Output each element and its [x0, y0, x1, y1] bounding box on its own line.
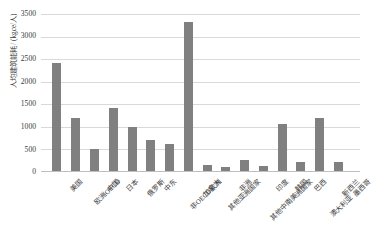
- x-tick-label-5: 中东: [161, 176, 178, 193]
- bar-8: [203, 165, 212, 171]
- bar-14: [315, 118, 324, 171]
- gridline-2500: [41, 59, 360, 60]
- x-tick-label-3: 日本: [123, 176, 140, 193]
- y-tick-label-500: 500: [2, 146, 36, 154]
- gridline-3000: [41, 37, 360, 38]
- bar-1: [71, 118, 80, 171]
- y-tick-label-2500: 2500: [2, 55, 36, 63]
- x-tick-label-13: 巴西: [311, 176, 328, 193]
- bar-9: [221, 167, 230, 171]
- bar-5: [146, 140, 155, 171]
- bar-4: [128, 127, 137, 171]
- y-tick-label-3500: 3500: [2, 10, 36, 18]
- bar-6: [165, 144, 174, 171]
- bar-11: [259, 166, 268, 171]
- x-axis-baseline: [41, 171, 360, 172]
- x-tick-label-0: 美国: [67, 176, 84, 193]
- bar-15: [334, 162, 343, 171]
- gridline-500: [41, 149, 360, 150]
- y-tick-label-2000: 2000: [2, 78, 36, 86]
- x-tick-label-11: 印度: [273, 176, 290, 193]
- x-tick-label-14: 澳大利亚: [327, 192, 354, 219]
- bar-10: [240, 160, 249, 171]
- bar-7: [184, 22, 193, 171]
- y-tick-label-1000: 1000: [2, 123, 36, 131]
- gridline-1500: [41, 104, 360, 105]
- bar-0: [52, 63, 61, 171]
- bar-12: [278, 124, 287, 171]
- bar-13: [296, 162, 305, 171]
- bar-3: [109, 108, 118, 171]
- gridline-1000: [41, 127, 360, 128]
- bar-2: [90, 149, 99, 171]
- y-tick-label-0: 0: [2, 168, 36, 176]
- plot-area: [41, 14, 360, 172]
- gridline-2000: [41, 82, 360, 83]
- y-tick-label-3000: 3000: [2, 32, 36, 40]
- gridline-3500: [41, 14, 360, 15]
- y-tick-label-1500: 1500: [2, 100, 36, 108]
